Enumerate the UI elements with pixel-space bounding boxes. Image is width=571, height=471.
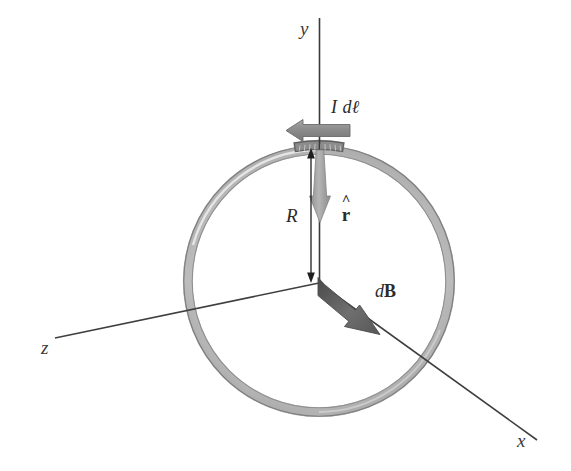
physics-diagram-figure: y z x I dℓ R ^ r dB xyxy=(0,0,571,471)
x-axis-line xyxy=(319,283,537,440)
magnetic-field-label: dB xyxy=(375,281,396,302)
y-axis-label: y xyxy=(300,18,308,40)
current-element-arrow xyxy=(286,120,350,142)
hat-accent: ^ xyxy=(337,196,355,204)
diagram-canvas xyxy=(0,0,571,471)
radius-dimension-arrow xyxy=(307,148,315,283)
magnetic-field-arrow xyxy=(318,278,380,335)
field-symbol: B xyxy=(384,281,396,301)
x-axis-label: x xyxy=(517,430,525,452)
length-element-symbol: ℓ xyxy=(352,97,360,117)
r-hat-label: ^ r xyxy=(337,196,355,224)
radius-label: R xyxy=(286,205,298,227)
r-symbol: r xyxy=(337,205,355,224)
differential-symbol-db: d xyxy=(375,281,384,301)
current-element-label: I dℓ xyxy=(331,97,360,118)
differential-symbol: d xyxy=(343,97,353,117)
z-axis-label: z xyxy=(41,337,48,359)
r-hat-arrow xyxy=(310,150,331,223)
